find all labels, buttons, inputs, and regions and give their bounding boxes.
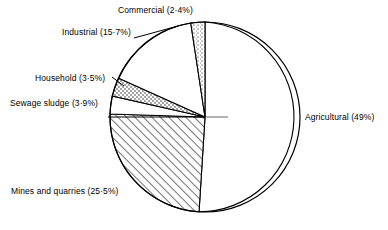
pie-chart: Commercial (2·4%) Industrial (15·7%) Hou… [0,0,388,230]
pie-label-sewage-sludge: Sewage sludge (3·9%) [10,98,98,108]
pie-label-industrial: Industrial (15·7%) [62,27,131,37]
pie-label-agricultural: Agricultural (49%) [305,112,374,122]
pie-label-household: Household (3·5%) [35,73,105,83]
pie-slice-mines-and-quarries [110,114,205,212]
pie-label-commercial: Commercial (2·4%) [118,5,193,15]
pie-label-mines-and-quarries: Mines and quarries (25·5%) [11,186,118,196]
